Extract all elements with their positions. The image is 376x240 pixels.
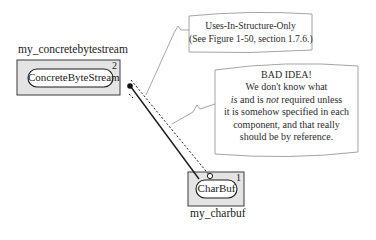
note-uses-in-structure-line-1: Uses-In-Structure-Only xyxy=(189,20,312,33)
note-uses-in-structure-pointer xyxy=(146,26,189,95)
dependency-dotted-line-2 xyxy=(129,94,133,98)
dependency-dotted-line[interactable] xyxy=(131,80,210,176)
note-bad-idea: BAD IDEA! We don't know what is and is n… xyxy=(215,69,358,143)
note-bad-idea-line-1: We don't know what xyxy=(215,81,358,93)
note-bad-idea-line-3: it is somehow specified in each xyxy=(215,106,358,118)
filled-endpoint-icon xyxy=(127,83,133,89)
line-2-end: required unless xyxy=(279,94,342,105)
note-bad-idea-pointer xyxy=(172,104,215,124)
note-bad-idea-title: BAD IDEA! xyxy=(215,69,358,81)
note-uses-in-structure: Uses-In-Structure-Only (See Figure 1-50,… xyxy=(189,20,312,45)
instance-label-concretebytestream: my_concretebytestream xyxy=(18,43,128,55)
component-number-concretebytestream: 2 xyxy=(112,60,117,71)
note-bad-idea-line-2: is and is not required unless xyxy=(215,94,358,106)
note-bad-idea-line-4: component, and that really xyxy=(215,119,358,131)
note-uses-in-structure-line-2: (See Figure 1-50, section 1.7.6.) xyxy=(189,33,312,46)
note-bad-idea-line-5: should be by reference. xyxy=(215,131,358,143)
italic-not: not xyxy=(266,94,279,105)
type-label-concretebytestream: ConcreteByteStream xyxy=(28,71,113,83)
instance-label-charbuf: my_charbuf xyxy=(190,207,246,219)
open-endpoint-icon xyxy=(207,173,212,178)
association-solid-line[interactable] xyxy=(131,87,199,179)
type-label-charbuf: CharBuf xyxy=(196,182,237,194)
line-2-mid: and is xyxy=(237,94,266,105)
